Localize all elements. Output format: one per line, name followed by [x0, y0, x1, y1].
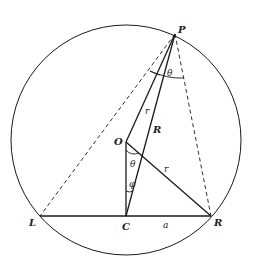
segment-label-r-lower: r: [164, 164, 169, 174]
point-label-L: L: [28, 217, 36, 228]
angle-arc-C: [126, 191, 133, 192]
segment-label-r-upper: r: [145, 106, 150, 116]
geometry-diagram: P O C L R r R r a θ θ φ: [0, 0, 253, 269]
angle-label-theta-P: θ: [167, 68, 173, 78]
segment-label-a: a: [163, 220, 168, 230]
point-label-P: P: [177, 24, 186, 35]
segment-label-R: R: [152, 124, 161, 135]
point-label-R: R: [213, 217, 222, 228]
point-label-C: C: [122, 221, 130, 232]
angle-label-theta-O: θ: [130, 159, 136, 169]
point-label-O: O: [114, 136, 123, 147]
diagram-svg: P O C L R r R r a θ θ φ: [0, 0, 253, 269]
angle-label-phi-C: φ: [129, 179, 136, 189]
